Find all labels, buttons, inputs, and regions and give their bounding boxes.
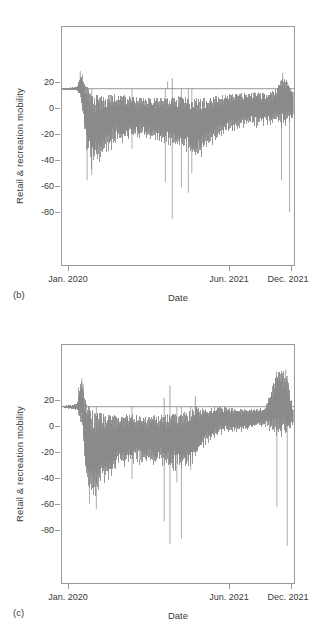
x-tick-mark: [229, 584, 230, 589]
panel-label-b: (b): [13, 289, 25, 300]
x-axis-label: Date: [61, 610, 295, 621]
x-tick-label: Jan. 2020: [48, 274, 88, 284]
y-tick-mark: [55, 160, 60, 161]
x-tick-label: Dec. 2021: [267, 592, 308, 602]
series-retail-recreation-mobility-c: [62, 345, 294, 583]
x-tick-mark: [229, 266, 230, 271]
panel-b: 20 0 -20 -40 -60 -80 Retail & recreation…: [0, 0, 319, 318]
y-tick-mark: [55, 452, 60, 453]
y-tick-mark: [55, 504, 60, 505]
y-tick-mark: [55, 134, 60, 135]
x-tick-mark: [68, 584, 69, 589]
y-tick-mark: [55, 530, 60, 531]
y-tick-mark: [55, 186, 60, 187]
x-tick-label: Dec. 2021: [267, 274, 308, 284]
y-tick-mark: [55, 212, 60, 213]
figure-mobility-timeseries: 20 0 -20 -40 -60 -80 Retail & recreation…: [0, 0, 319, 636]
x-tick-mark: [291, 266, 292, 271]
panel-label-c: (c): [13, 607, 24, 618]
series-retail-recreation-mobility-b: [62, 27, 294, 265]
y-axis-label: Retail & recreation mobility: [14, 344, 32, 584]
plot-area-c: [61, 344, 295, 584]
y-tick-mark: [55, 400, 60, 401]
y-tick-mark: [55, 478, 60, 479]
x-tick-mark: [291, 584, 292, 589]
x-tick-label: Jan. 2020: [48, 592, 88, 602]
plot-area-b: [61, 26, 295, 266]
x-tick-label: Jun. 2021: [209, 592, 249, 602]
y-tick-mark: [55, 108, 60, 109]
x-axis-label: Date: [61, 292, 295, 303]
y-tick-mark: [55, 82, 60, 83]
y-axis-label: Retail & recreation mobility: [14, 26, 32, 266]
panel-c: 20 0 -20 -40 -60 -80 Retail & recreation…: [0, 318, 319, 636]
x-tick-label: Jun. 2021: [209, 274, 249, 284]
y-tick-mark: [55, 426, 60, 427]
x-tick-mark: [68, 266, 69, 271]
